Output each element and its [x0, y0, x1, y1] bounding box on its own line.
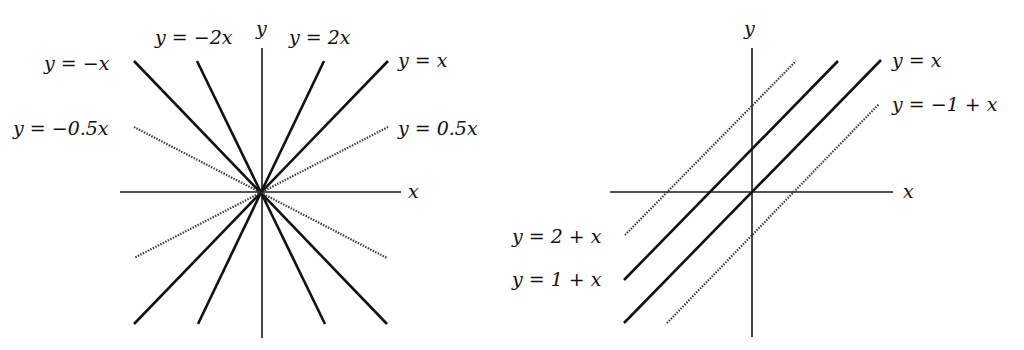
left-y-axis-label: y [255, 17, 267, 39]
right-line-2-plus-x [625, 61, 796, 235]
label-neg-2x: y = −2x [154, 26, 233, 48]
label-1-plus-x: y = 1 + x [511, 268, 602, 290]
left-x-axis-label: x [408, 180, 419, 202]
right-y-axis-label: y [743, 17, 755, 39]
label-x: y = x [397, 49, 448, 71]
right-panel: y x y = x y = −1 + x y = 2 + x y = 1 + x [511, 17, 998, 337]
right-line-neg-1-plus-x [667, 104, 879, 323]
label-neg-0.5x: y = −0.5x [12, 117, 109, 139]
figure: y x y = −x y = −2x y = 2x y = x y = −0.5… [0, 0, 1024, 350]
label-neg-1-plus-x: y = −1 + x [891, 93, 998, 115]
label-neg-x: y = −x [43, 52, 110, 74]
figure-canvas: y x y = −x y = −2x y = 2x y = x y = −0.5… [0, 0, 1024, 350]
left-panel: y x y = −x y = −2x y = 2x y = x y = −0.5… [12, 17, 478, 338]
right-x-axis-label: x [903, 180, 914, 202]
label-2-plus-x: y = 2 + x [511, 225, 602, 247]
right-line-1-plus-x [624, 61, 838, 280]
label-2x: y = 2x [288, 26, 351, 48]
label-right-x: y = x [891, 49, 942, 71]
label-0.5x: y = 0.5x [397, 117, 478, 139]
